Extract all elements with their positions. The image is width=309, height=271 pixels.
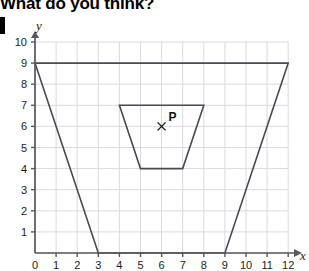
x-tick-label: 0 — [32, 259, 38, 271]
x-tick-label: 9 — [222, 259, 228, 271]
y-tick-label: 2 — [21, 205, 27, 217]
x-tick-label: 1 — [53, 259, 59, 271]
x-tick-label: 5 — [137, 259, 143, 271]
gridlines — [35, 42, 288, 253]
x-tick-label: 6 — [159, 259, 165, 271]
y-tick-label: 7 — [21, 99, 27, 111]
x-tick-label: 2 — [74, 259, 80, 271]
y-tick-label: 3 — [21, 184, 27, 196]
y-tick-label: 6 — [21, 120, 27, 132]
worksheet-figure: What do you think? 012345678910111212345… — [0, 0, 309, 271]
plot-svg: 012345678910111212345678910 P y x — [0, 14, 309, 271]
annotations-layer: P — [158, 110, 177, 130]
y-tick-label: 10 — [15, 36, 27, 48]
y-tick-label: 9 — [21, 57, 27, 69]
point-label-p: P — [169, 110, 177, 124]
x-tick-label: 11 — [261, 259, 272, 271]
y-tick-label: 4 — [21, 163, 27, 175]
coordinate-plot: 012345678910111212345678910 P y x — [0, 14, 309, 271]
x-tick-label: 8 — [201, 259, 207, 271]
y-tick-label: 5 — [21, 142, 27, 154]
x-tick-label: 12 — [282, 259, 294, 271]
x-axis-label: x — [299, 248, 306, 263]
x-tick-label: 10 — [240, 259, 252, 271]
y-tick-label: 1 — [21, 226, 27, 238]
tick-labels-layer: 012345678910111212345678910 — [15, 36, 295, 271]
x-tick-label: 7 — [180, 259, 186, 271]
x-tick-label: 4 — [116, 259, 122, 271]
y-axis-label: y — [34, 18, 42, 33]
x-tick-label: 3 — [95, 259, 101, 271]
y-tick-label: 8 — [21, 78, 27, 90]
